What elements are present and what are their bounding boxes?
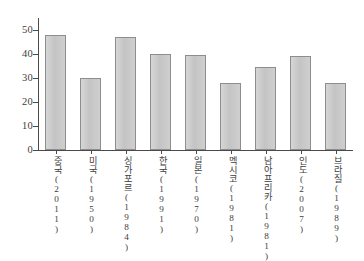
y-tick-label: 10	[22, 121, 33, 131]
x-tick	[231, 150, 232, 154]
y-tick-label: 30	[22, 73, 33, 83]
y-tick-label: 40	[22, 49, 33, 59]
x-tick	[161, 150, 162, 154]
x-tick	[56, 150, 57, 154]
bar-series	[38, 18, 353, 150]
bar	[150, 54, 171, 150]
x-tick-label: 일본(1970)	[188, 156, 202, 234]
x-tick-label: 인도(2007)	[293, 156, 307, 234]
bar	[80, 78, 101, 150]
x-tick	[91, 150, 92, 154]
x-tick-label: 한국(1991)	[153, 156, 167, 234]
y-tick-label: 50	[22, 25, 33, 35]
y-tick-label: 20	[22, 97, 33, 107]
x-tick-label: 미국(1950)	[83, 156, 97, 234]
x-tick-label: 중국(2011)	[48, 156, 62, 234]
x-tick-label: 싱가포르(1984)	[118, 156, 132, 252]
bar	[185, 55, 206, 150]
x-tick	[336, 150, 337, 154]
x-tick	[266, 150, 267, 154]
x-tick-label: 남아프리카(1981)	[258, 156, 272, 261]
bar	[115, 37, 136, 150]
x-tick-label: 브라질(1989)	[328, 156, 342, 243]
bar	[290, 56, 311, 150]
x-tick	[196, 150, 197, 154]
x-tick	[301, 150, 302, 154]
y-tick	[33, 150, 38, 151]
x-tick	[126, 150, 127, 154]
bar	[325, 83, 346, 150]
bar	[220, 83, 241, 150]
x-tick-label: 멕시코(1981)	[223, 156, 237, 243]
y-tick-label: 0	[28, 145, 33, 155]
bar	[45, 35, 66, 150]
bar	[255, 67, 276, 150]
